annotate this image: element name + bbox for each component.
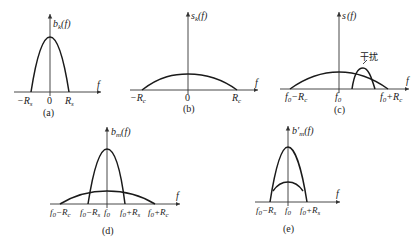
interference-curve [352,68,375,89]
caption-c: (c) [334,104,345,116]
caption-d: (d) [102,225,114,237]
caption-a: (a) [43,107,54,119]
tick-f0: f0 [285,205,292,217]
panel-c: 干扰 s(f) f f0−Rc f0 f0+Rc (c) [280,10,410,116]
tick-f0-minus-rc: f0−Rc [50,207,72,219]
spread-spectrum-figure: bk(f) f −Rs 0 Rs (a) sk(f) f −Rc 0 Rc (b… [0,0,420,246]
panel-b: sk(f) f −Rc 0 Rc (b) [130,10,259,115]
y-axis-label: bk(f) [53,18,71,31]
spread-interference-curve [60,191,155,204]
tick-f0: f0 [104,207,111,219]
tick-f0-minus-rs: f0−Rs [80,207,101,219]
spread-spectrum-curve [142,74,237,90]
x-axis-label: f [406,75,410,86]
interference-label: 干扰 [360,51,378,62]
x-axis-label: f [336,188,340,199]
panel-e: b′m(f) f f0−Rs f0 f0+Rs (e) [255,125,340,235]
y-axis-label: b′m(f) [292,125,314,138]
caption-e: (e) [283,223,294,235]
tick-rs: Rs [64,95,74,108]
tick-f0-minus-rc: f0−Rc [285,91,308,104]
despread-signal-curve [88,149,125,204]
x-axis-label: f [97,79,101,90]
tick-rc: Rc [231,92,242,105]
caption-b: (b) [183,103,195,115]
tick-f0-minus-rs: f0−Rs [256,205,277,217]
tick-f0-plus-rs: f0+Rs [300,205,321,217]
y-axis-label: bm(f) [111,126,131,139]
tick-neg-rc: −Rc [130,92,147,105]
tick-neg-rs: −Rs [17,95,33,108]
tick-zero: 0 [185,92,190,103]
tick-zero: 0 [47,95,52,106]
tick-f0: f0 [335,91,342,104]
filtered-signal-curve [270,147,307,202]
tick-f0-plus-rs: f0+Rs [120,207,141,219]
panel-a: bk(f) f −Rs 0 Rs (a) [14,14,101,119]
y-axis-label: s(f) [342,10,357,22]
x-axis-label: f [255,77,259,88]
x-axis-label: f [176,190,180,201]
tick-f0-plus-rc: f0+Rc [148,207,170,219]
tick-f0-plus-rc: f0+Rc [380,91,403,104]
panel-d: bm(f) f f0−Rc f0−Rs f0 f0+Rs f0+Rc (d) [50,126,180,237]
y-axis-label: sk(f) [191,10,208,23]
